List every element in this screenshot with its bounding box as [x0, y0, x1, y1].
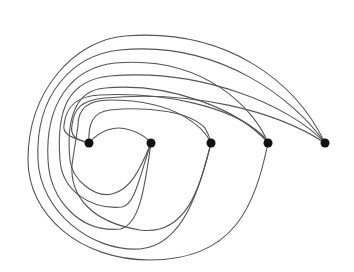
graph-diagram [0, 0, 354, 272]
node-v3 [207, 139, 216, 148]
node-group [85, 139, 330, 148]
node-v1 [85, 139, 94, 148]
edge-v1-v2 [89, 128, 151, 143]
node-v2 [147, 139, 156, 148]
edge-v2-v4b [48, 62, 268, 229]
edge-v3-v5 [38, 49, 325, 249]
edge-v1-v3 [89, 109, 211, 143]
edge-group [28, 35, 325, 260]
node-v5 [321, 139, 330, 148]
node-v4 [264, 139, 273, 148]
edge-v2-v4 [69, 87, 268, 194]
